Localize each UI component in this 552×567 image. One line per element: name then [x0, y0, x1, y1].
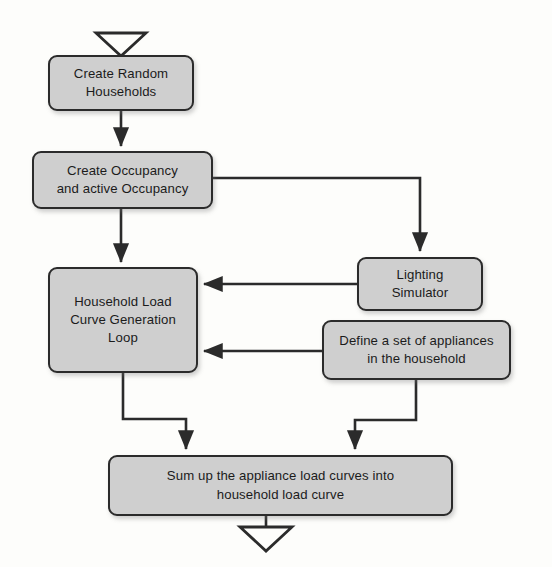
node-label: Sum up the appliance load curves into ho… [161, 467, 400, 503]
connector-occupancy-to-lighting [213, 178, 420, 251]
node-label: Lighting Simulator [386, 266, 455, 302]
node-label: Create Occupancy and active Occupancy [51, 162, 195, 198]
node-define-set-of-appliances[interactable]: Define a set of appliances in the househ… [322, 320, 511, 380]
node-lighting-simulator[interactable]: Lighting Simulator [357, 257, 483, 311]
node-sum-up-appliance-load-curves[interactable]: Sum up the appliance load curves into ho… [108, 455, 453, 516]
end-marker-icon [240, 527, 292, 551]
node-label: Define a set of appliances in the househ… [333, 332, 499, 368]
node-label: Create Random Households [68, 65, 174, 101]
start-marker-icon [96, 33, 146, 56]
node-household-load-curve-generation-loop[interactable]: Household Load Curve Generation Loop [48, 267, 198, 373]
node-create-random-households[interactable]: Create Random Households [48, 55, 194, 111]
flowchart: Create Random Households Create Occupanc… [0, 0, 552, 567]
connector-appliances-to-sum [355, 380, 416, 449]
node-label: Household Load Curve Generation Loop [64, 293, 182, 348]
node-create-occupancy[interactable]: Create Occupancy and active Occupancy [32, 151, 213, 209]
connector-loop-to-sum [123, 373, 186, 449]
